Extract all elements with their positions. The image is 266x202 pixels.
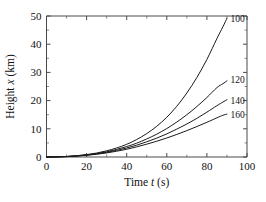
x-axis-title: Time t (s)	[124, 176, 169, 189]
chart-figure: 020406080100 01020304050 100120140160 Ti…	[0, 0, 266, 202]
curve-label-100: 100	[230, 14, 245, 24]
y-tick-label: 20	[31, 94, 43, 106]
curve-label-140: 140	[230, 96, 245, 106]
x-tick-label: 60	[161, 160, 173, 172]
x-tick-label: 100	[239, 160, 256, 172]
x-tick-label: 80	[201, 160, 213, 172]
curve-label-160: 160	[230, 110, 245, 120]
axis-frame-path	[47, 16, 248, 157]
axes-frame	[47, 16, 248, 157]
curve-group	[47, 18, 227, 157]
y-tick-label: 0	[36, 151, 42, 163]
x-tick-labels: 020406080100	[44, 160, 256, 172]
minor-tick-group	[47, 16, 248, 157]
major-tick-group	[47, 16, 248, 157]
curve-labels: 100120140160	[230, 14, 245, 120]
y-axis-title: Height x (km)	[4, 54, 17, 119]
curve-140	[47, 100, 227, 157]
curve-160	[47, 114, 227, 157]
curve-label-120: 120	[230, 75, 245, 85]
x-tick-label: 0	[44, 160, 50, 172]
x-tick-label: 20	[81, 160, 93, 172]
y-tick-label: 10	[31, 123, 43, 135]
x-tick-label: 40	[121, 160, 133, 172]
curve-100	[47, 18, 227, 157]
y-tick-label: 50	[31, 10, 43, 22]
y-tick-label: 30	[31, 66, 43, 78]
line-chart: 020406080100 01020304050 100120140160 Ti…	[0, 0, 266, 202]
y-tick-labels: 01020304050	[31, 10, 43, 163]
y-tick-label: 40	[31, 38, 43, 50]
